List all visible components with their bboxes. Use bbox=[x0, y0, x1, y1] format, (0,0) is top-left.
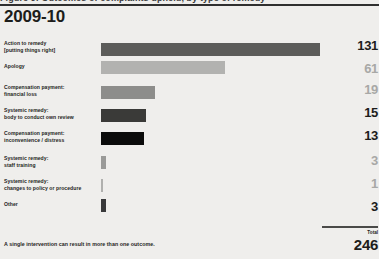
bar-value-label: 15 bbox=[330, 105, 378, 120]
bar bbox=[101, 179, 103, 192]
category-label-line1: Compensation payment: bbox=[4, 84, 64, 90]
category-label-line2: changes to policy or procedure bbox=[4, 185, 98, 192]
category-label-line1: Systemic remedy: bbox=[4, 107, 48, 113]
bar bbox=[101, 61, 225, 74]
total-label: Total bbox=[322, 230, 378, 235]
bar bbox=[101, 156, 106, 169]
bar bbox=[101, 109, 146, 122]
bar bbox=[101, 86, 155, 99]
top-divider bbox=[0, 4, 379, 6]
category-label-line2: [putting things right] bbox=[4, 47, 98, 54]
bar-value-label: 131 bbox=[330, 38, 378, 53]
category-label: Compensation payment:financial loss bbox=[4, 84, 98, 98]
category-label: Apology bbox=[4, 63, 98, 70]
category-label-line1: Compensation payment: bbox=[4, 130, 64, 136]
category-label: Action to remedy[putting things right] bbox=[4, 40, 98, 54]
bar bbox=[101, 43, 320, 56]
bar-chart-plot-area: Action to remedy[putting things right]13… bbox=[0, 33, 379, 220]
bar-value-label: 61 bbox=[330, 61, 378, 76]
category-label-line1: Systemic remedy: bbox=[4, 155, 48, 161]
category-label-line1: Systemic remedy: bbox=[4, 178, 48, 184]
bar bbox=[101, 132, 144, 145]
category-label: Systemic remedy:staff training bbox=[4, 155, 98, 169]
page-title: 2009-10 bbox=[4, 7, 65, 27]
category-label-line2: body to conduct own review bbox=[4, 114, 98, 121]
bar-value-label: 13 bbox=[330, 128, 378, 143]
category-label-line2: financial loss bbox=[4, 91, 98, 98]
figure-container: Figure 9: Outcomes of complaints upheld,… bbox=[0, 0, 379, 259]
total-value: 246 bbox=[312, 236, 378, 253]
bar-value-label: 3 bbox=[330, 199, 378, 214]
bar-value-label: 19 bbox=[330, 82, 378, 97]
category-label-line2: staff training bbox=[4, 162, 98, 169]
bar bbox=[101, 199, 106, 212]
category-label: Systemic remedy:changes to policy or pro… bbox=[4, 178, 98, 192]
category-label: Compensation payment:inconvenience / dis… bbox=[4, 130, 98, 144]
bar-value-label: 1 bbox=[330, 176, 378, 191]
category-label-line2: inconvenience / distress bbox=[4, 137, 98, 144]
bar-value-label: 3 bbox=[330, 153, 378, 168]
category-label-line1: Other bbox=[4, 201, 18, 207]
total-divider bbox=[322, 226, 378, 228]
category-label-line1: Apology bbox=[4, 63, 25, 69]
chart-footnote: A single intervention can result in more… bbox=[4, 241, 155, 247]
category-label-line1: Action to remedy bbox=[4, 40, 46, 46]
category-label: Other bbox=[4, 201, 98, 208]
category-label: Systemic remedy:body to conduct own revi… bbox=[4, 107, 98, 121]
